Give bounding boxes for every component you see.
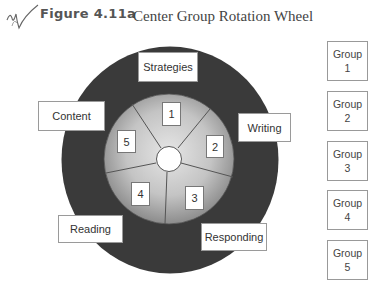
segment-2: 2: [206, 135, 224, 158]
group-box-4: Group 4: [327, 190, 368, 230]
group-number: 5: [345, 260, 351, 274]
group-label: Group: [333, 246, 362, 260]
group-number: 1: [345, 61, 351, 75]
group-box-3: Group 3: [327, 141, 368, 181]
group-number: 4: [345, 210, 351, 224]
group-label: Group: [333, 196, 362, 210]
segment-1: 1: [162, 102, 181, 126]
label-writing: Writing: [238, 113, 291, 142]
group-label: Group: [333, 47, 362, 61]
group-box-5: Group 5: [327, 240, 368, 280]
rotation-wheel: [0, 0, 383, 295]
group-label: Group: [333, 97, 362, 111]
segment-3: 3: [185, 186, 204, 210]
group-number: 2: [345, 111, 351, 125]
label-responding: Responding: [201, 223, 267, 251]
group-label: Group: [333, 147, 362, 161]
label-reading: Reading: [58, 215, 123, 243]
group-box-1: Group 1: [327, 41, 368, 81]
group-box-2: Group 2: [327, 91, 368, 131]
group-number: 3: [345, 161, 351, 175]
label-strategies: Strategies: [138, 52, 198, 82]
segment-5: 5: [117, 130, 136, 153]
label-content: Content: [38, 101, 105, 131]
center-hub: [157, 147, 182, 172]
segment-4: 4: [131, 182, 150, 206]
